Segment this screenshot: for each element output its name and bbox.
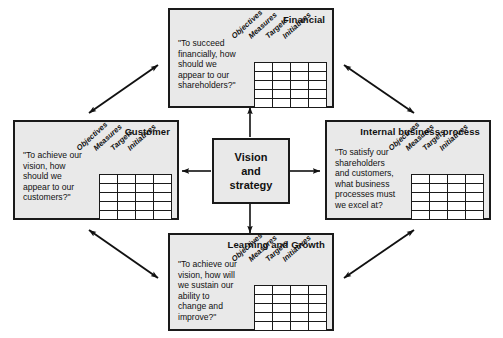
- table-cell[interactable]: [255, 304, 273, 313]
- table-cell[interactable]: [448, 211, 466, 220]
- table-cell[interactable]: [430, 211, 448, 220]
- table-row[interactable]: [100, 184, 172, 193]
- table-cell[interactable]: [255, 81, 273, 90]
- table-cell[interactable]: [255, 322, 273, 331]
- table-row[interactable]: [255, 99, 327, 108]
- table-cell[interactable]: [448, 193, 466, 202]
- table-cell[interactable]: [309, 81, 327, 90]
- scorecard-grid-internal-business-process[interactable]: Objectives Measures Targets Initiatives: [411, 136, 489, 220]
- table-cell[interactable]: [118, 202, 136, 211]
- table-row[interactable]: [412, 193, 484, 202]
- table-cell[interactable]: [255, 286, 273, 295]
- table-cell[interactable]: [448, 175, 466, 184]
- table-cell[interactable]: [100, 175, 118, 184]
- table-cell[interactable]: [448, 184, 466, 193]
- table-cell[interactable]: [255, 99, 273, 108]
- table-cell[interactable]: [154, 202, 172, 211]
- table-cell[interactable]: [273, 286, 291, 295]
- table-cell[interactable]: [154, 193, 172, 202]
- table-cell[interactable]: [291, 322, 309, 331]
- table-cell[interactable]: [412, 202, 430, 211]
- table-cell[interactable]: [136, 202, 154, 211]
- table-row[interactable]: [100, 175, 172, 184]
- table-cell[interactable]: [430, 193, 448, 202]
- table-cell[interactable]: [100, 193, 118, 202]
- table-cell[interactable]: [118, 193, 136, 202]
- table-cell[interactable]: [448, 202, 466, 211]
- table-cell[interactable]: [309, 304, 327, 313]
- table-cell[interactable]: [136, 184, 154, 193]
- perspective-box-learning-and-growth[interactable]: Learning and Growth "To achieve our visi…: [168, 233, 334, 331]
- scorecard-table[interactable]: [254, 62, 327, 108]
- table-cell[interactable]: [309, 90, 327, 99]
- table-cell[interactable]: [430, 202, 448, 211]
- table-cell[interactable]: [466, 211, 484, 220]
- perspective-box-internal-business-process[interactable]: Internal business process "To satisfy ou…: [325, 120, 491, 220]
- scorecard-grid-financial[interactable]: Objectives Measures Targets Initiatives: [254, 24, 332, 108]
- table-cell[interactable]: [291, 286, 309, 295]
- table-cell[interactable]: [118, 184, 136, 193]
- table-cell[interactable]: [136, 193, 154, 202]
- table-cell[interactable]: [291, 72, 309, 81]
- table-cell[interactable]: [255, 313, 273, 322]
- table-cell[interactable]: [291, 99, 309, 108]
- table-cell[interactable]: [466, 202, 484, 211]
- table-cell[interactable]: [273, 304, 291, 313]
- table-cell[interactable]: [255, 72, 273, 81]
- table-cell[interactable]: [309, 313, 327, 322]
- table-cell[interactable]: [118, 211, 136, 220]
- table-cell[interactable]: [430, 175, 448, 184]
- table-row[interactable]: [255, 295, 327, 304]
- table-cell[interactable]: [136, 211, 154, 220]
- table-row[interactable]: [255, 63, 327, 72]
- table-cell[interactable]: [118, 175, 136, 184]
- vision-and-strategy-box[interactable]: Vision and strategy: [212, 138, 290, 204]
- perspective-box-customer[interactable]: Customer "To achieve our vision, how sho…: [13, 120, 179, 220]
- table-cell[interactable]: [273, 63, 291, 72]
- table-cell[interactable]: [273, 81, 291, 90]
- table-cell[interactable]: [309, 63, 327, 72]
- table-cell[interactable]: [430, 184, 448, 193]
- table-row[interactable]: [412, 202, 484, 211]
- table-cell[interactable]: [136, 175, 154, 184]
- table-cell[interactable]: [291, 81, 309, 90]
- table-cell[interactable]: [255, 63, 273, 72]
- table-cell[interactable]: [154, 175, 172, 184]
- scorecard-table[interactable]: [99, 174, 172, 220]
- table-cell[interactable]: [412, 193, 430, 202]
- table-cell[interactable]: [100, 211, 118, 220]
- table-cell[interactable]: [412, 175, 430, 184]
- table-row[interactable]: [100, 202, 172, 211]
- table-row[interactable]: [412, 184, 484, 193]
- perspective-box-financial[interactable]: Financial "To succeed financially, how s…: [168, 8, 334, 108]
- table-row[interactable]: [255, 90, 327, 99]
- table-cell[interactable]: [291, 304, 309, 313]
- table-row[interactable]: [412, 175, 484, 184]
- table-cell[interactable]: [273, 322, 291, 331]
- table-cell[interactable]: [100, 184, 118, 193]
- table-cell[interactable]: [154, 211, 172, 220]
- table-cell[interactable]: [273, 313, 291, 322]
- table-cell[interactable]: [466, 175, 484, 184]
- table-cell[interactable]: [412, 211, 430, 220]
- table-row[interactable]: [100, 193, 172, 202]
- table-cell[interactable]: [309, 72, 327, 81]
- table-cell[interactable]: [255, 295, 273, 304]
- table-cell[interactable]: [255, 90, 273, 99]
- table-cell[interactable]: [291, 313, 309, 322]
- table-row[interactable]: [255, 81, 327, 90]
- table-row[interactable]: [255, 72, 327, 81]
- table-row[interactable]: [255, 286, 327, 295]
- table-cell[interactable]: [291, 295, 309, 304]
- table-row[interactable]: [255, 313, 327, 322]
- scorecard-table[interactable]: [411, 174, 484, 220]
- table-row[interactable]: [412, 211, 484, 220]
- scorecard-grid-learning-and-growth[interactable]: Objectives Measures Targets Initiatives: [254, 247, 332, 331]
- table-cell[interactable]: [154, 184, 172, 193]
- table-cell[interactable]: [309, 322, 327, 331]
- table-cell[interactable]: [466, 193, 484, 202]
- table-row[interactable]: [255, 304, 327, 313]
- table-cell[interactable]: [412, 184, 430, 193]
- table-cell[interactable]: [309, 99, 327, 108]
- table-cell[interactable]: [309, 286, 327, 295]
